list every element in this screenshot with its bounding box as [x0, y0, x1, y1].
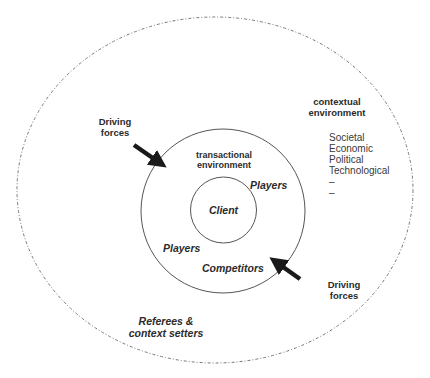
factor-item: Technological — [329, 165, 390, 176]
transactional-environment-title-line1: transactional — [196, 150, 252, 160]
client-label: Client — [209, 204, 239, 216]
driving-forces-label-bottomright-line1: Driving — [328, 279, 361, 290]
driving-forces-label-bottomright-line2: forces — [330, 290, 359, 301]
factor-item: Economic — [329, 143, 373, 154]
factor-item: – — [329, 187, 335, 198]
driving-force-arrow-topleft — [134, 145, 160, 163]
referees-label-line2: context setters — [129, 327, 204, 339]
factor-item: – — [329, 176, 335, 187]
driving-forces-label-topleft-line1: Driving — [99, 116, 132, 127]
contextual-environment-title-line2: environment — [308, 107, 366, 118]
environment-diagram: Driving forces contextual environment So… — [0, 0, 430, 378]
factor-item: Societal — [329, 132, 365, 143]
contextual-environment-title-line1: contextual — [313, 96, 361, 107]
players-label-lower: Players — [163, 242, 201, 254]
players-label-upper: Players — [250, 179, 288, 191]
contextual-factors-list: Societal Economic Political Technologica… — [329, 132, 390, 198]
referees-label-line1: Referees & — [139, 315, 194, 327]
factor-item: Political — [329, 154, 363, 165]
competitors-label: Competitors — [202, 262, 264, 274]
transactional-environment-title-line2: environment — [197, 160, 251, 170]
contextual-environment-boundary — [17, 17, 413, 363]
driving-forces-label-topleft-line2: forces — [101, 127, 130, 138]
